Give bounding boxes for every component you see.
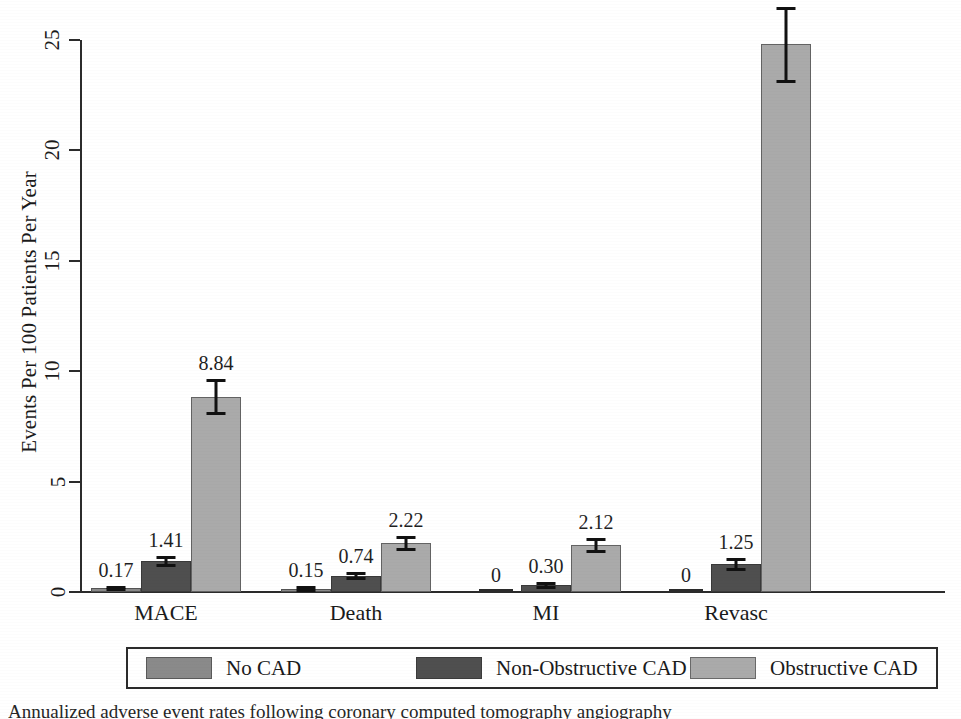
bar-value-label: 0 [491, 565, 501, 585]
y-axis-tick-label: 20 [42, 140, 63, 161]
bar-chart-figure: Events Per 100 Patients Per Year 0510152… [0, 0, 961, 719]
error-bar-cap [587, 538, 606, 541]
legend-color-swatch [416, 657, 482, 679]
bar [191, 397, 241, 592]
error-bar-cap [157, 556, 176, 559]
error-bar-cap [397, 536, 416, 539]
legend-entry: Non-Obstructive CAD [416, 649, 687, 687]
bar-value-label: 8.84 [199, 353, 234, 373]
x-axis-category-label: MACE [134, 602, 198, 624]
error-bar-cap [207, 412, 226, 415]
bar [669, 589, 703, 592]
error-bar-cap [157, 564, 176, 567]
legend-entry: No CAD [146, 649, 301, 687]
y-axis-tick: 0 [69, 591, 80, 593]
bar-value-label: 24.82 [764, 0, 809, 1]
legend-label: No CAD [226, 658, 301, 679]
x-axis-category-label: Death [330, 602, 383, 624]
y-axis-tick: 10 [69, 370, 80, 372]
error-bar-cap [207, 379, 226, 382]
error-bar-cap [727, 568, 746, 571]
bar [479, 589, 513, 592]
y-axis-tick: 5 [69, 481, 80, 483]
bar-value-label: 0 [681, 565, 691, 585]
y-axis-tick: 20 [69, 149, 80, 151]
bar-value-label: 0.30 [529, 556, 564, 576]
error-bar [215, 380, 218, 413]
error-bar-cap [297, 589, 316, 592]
error-bar-cap [347, 572, 366, 575]
bar-value-label: 2.12 [579, 512, 614, 532]
y-axis-line [80, 40, 82, 592]
plot-area: 0510152025 0.171.418.840.150.742.2200.30… [80, 40, 945, 592]
bar-value-label: 0.17 [99, 560, 134, 580]
figure-caption: Annualized adverse event rates following… [8, 700, 958, 719]
bar-value-label: 0.15 [289, 560, 324, 580]
error-bar-cap [537, 582, 556, 585]
y-axis-tick-label: 25 [42, 30, 63, 51]
bar [761, 44, 811, 592]
legend-entry: Obstructive CAD [690, 649, 918, 687]
legend-label: Obstructive CAD [770, 658, 918, 679]
error-bar-cap [777, 80, 796, 83]
bar-value-label: 1.25 [719, 532, 754, 552]
error-bar-cap [727, 558, 746, 561]
bar-value-label: 2.22 [389, 510, 424, 530]
error-bar-cap [397, 548, 416, 551]
y-axis-tick: 15 [69, 260, 80, 262]
y-axis-tick-label: 10 [42, 361, 63, 382]
error-bar [785, 8, 788, 81]
error-bar-cap [777, 7, 796, 10]
legend-label: Non-Obstructive CAD [496, 658, 687, 679]
chart-legend: No CADNon-Obstructive CADObstructive CAD [126, 647, 938, 689]
y-axis-tick-label: 0 [47, 587, 68, 598]
bar-value-label: 0.74 [339, 546, 374, 566]
x-axis-category-label: MI [533, 602, 560, 624]
legend-color-swatch [690, 657, 756, 679]
legend-color-swatch [146, 657, 212, 679]
y-axis-title: Events Per 100 Patients Per Year [12, 12, 46, 612]
y-axis-tick-label: 15 [42, 250, 63, 271]
y-axis-tick: 25 [69, 39, 80, 41]
y-axis-tick-label: 5 [47, 476, 68, 487]
x-axis-category-label: Revasc [704, 602, 768, 624]
error-bar-cap [537, 586, 556, 589]
error-bar-cap [347, 577, 366, 580]
error-bar-cap [587, 550, 606, 553]
bar-value-label: 1.41 [149, 530, 184, 550]
error-bar-cap [107, 588, 126, 591]
